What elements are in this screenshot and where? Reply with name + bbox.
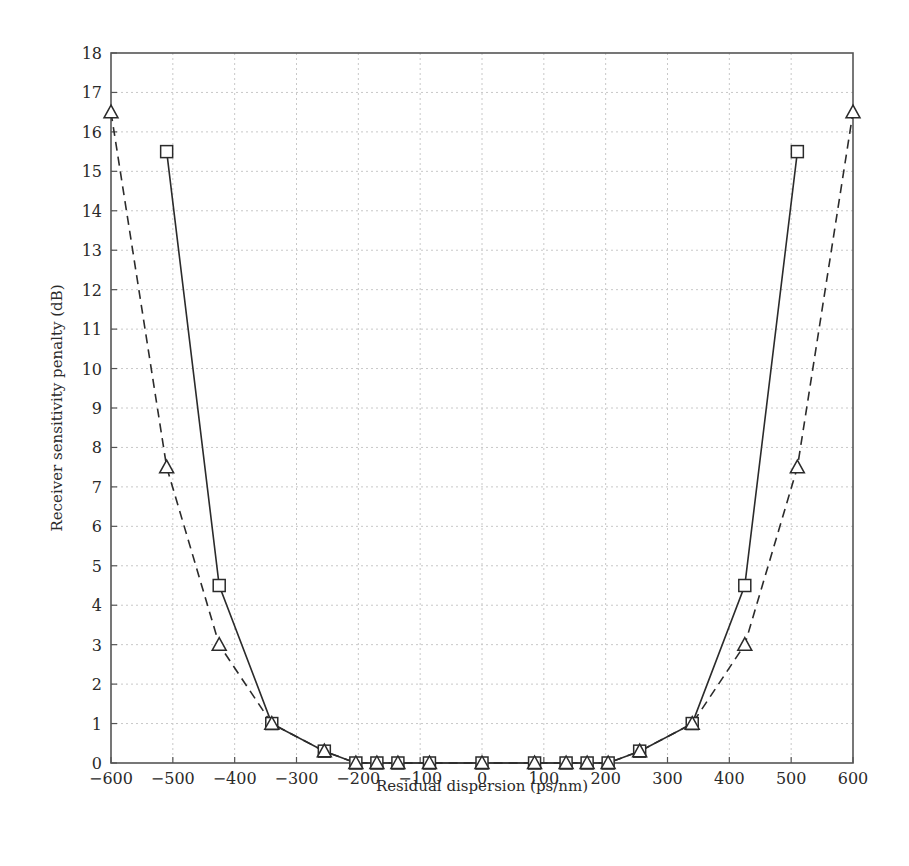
- square-marker-icon: [739, 580, 751, 592]
- x-tick-label: −400: [213, 769, 257, 788]
- y-tick-label: 11: [82, 320, 102, 339]
- y-tick-labels: 0123456789101112131415161718: [82, 44, 102, 773]
- y-tick-label: 1: [92, 715, 102, 734]
- square-marker-icon: [213, 580, 225, 592]
- y-tick-label: 16: [82, 123, 102, 142]
- y-tick-label: 18: [82, 44, 102, 63]
- x-tick-label: 300: [652, 769, 683, 788]
- x-tick-label: −500: [151, 769, 195, 788]
- triangle-marker-icon: [738, 638, 752, 651]
- y-tick-label: 9: [92, 399, 102, 418]
- y-tick-label: 8: [92, 438, 102, 457]
- x-tick-label: 400: [714, 769, 745, 788]
- triangle-marker-icon: [846, 105, 860, 118]
- triangle-marker-icon: [212, 638, 226, 651]
- y-tick-label: 4: [92, 596, 102, 615]
- y-tick-label: 2: [92, 675, 102, 694]
- y-tick-label: 0: [92, 754, 102, 773]
- x-tick-label: 600: [838, 769, 869, 788]
- y-tick-label: 14: [82, 202, 102, 221]
- triangle-marker-icon: [160, 460, 174, 473]
- x-tick-label: 500: [776, 769, 807, 788]
- triangle-marker-icon: [790, 460, 804, 473]
- y-tick-label: 13: [82, 241, 102, 260]
- chart-canvas: −600−500−400−300−200−1000100200300400500…: [0, 0, 909, 866]
- x-tick-label: −200: [336, 769, 380, 788]
- y-tick-label: 12: [82, 281, 102, 300]
- y-tick-label: 17: [82, 83, 102, 102]
- y-tick-label: 5: [92, 557, 102, 576]
- square-marker-icon: [791, 146, 803, 158]
- x-tick-label: 200: [590, 769, 621, 788]
- y-tick-label: 6: [92, 517, 102, 536]
- grid-lines: [111, 53, 853, 763]
- y-tick-label: 3: [92, 636, 102, 655]
- square-marker-icon: [161, 146, 173, 158]
- y-axis-title: Receiver sensitivity penalty (dB): [48, 284, 66, 531]
- triangle-marker-icon: [104, 105, 118, 118]
- y-tick-label: 7: [92, 478, 102, 497]
- y-tick-label: 15: [82, 162, 102, 181]
- x-tick-label: −300: [275, 769, 319, 788]
- x-axis-title: Residual dispersion (ps/nm): [376, 777, 588, 795]
- y-tick-label: 10: [82, 360, 102, 379]
